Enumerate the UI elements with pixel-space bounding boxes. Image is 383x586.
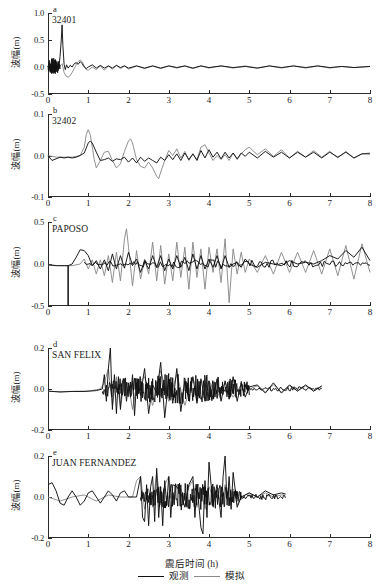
panel-b: -0.10.00.1012345678波幅(m)b32402: [0, 114, 383, 227]
y-axis-label-d: 波幅(m): [9, 377, 22, 403]
y-tick-label-a-3: 1.0: [34, 9, 44, 18]
x-tick-label-d-6: 6: [287, 432, 292, 441]
x-tick-label-c-7: 7: [328, 308, 333, 317]
x-tick-label-e-2: 2: [126, 540, 131, 549]
x-tick-label-e-7: 7: [328, 540, 333, 549]
y-tick-label-b-1: 0.0: [34, 151, 44, 160]
x-tick-label-d-0: 0: [46, 432, 51, 441]
x-tick-d-8: [370, 426, 371, 430]
x-tick-label-c-1: 1: [86, 308, 91, 317]
y-tick-label-c-1: 0.0: [34, 260, 44, 269]
y-tick-label-a-2: 0.5: [34, 36, 44, 45]
x-tick-label-e-0: 0: [46, 540, 51, 549]
trace-b-simulated: [48, 130, 370, 179]
x-axis-title: 震后时间 (h): [0, 556, 383, 570]
x-tick-label-d-7: 7: [328, 432, 333, 441]
y-tick-label-d-2: 0.2: [34, 344, 44, 353]
y-tick-label-d-1: 0.0: [34, 385, 44, 394]
panel-e: -0.20.00.2012345678波幅(m)eJUAN FERNANDEZ: [0, 456, 383, 568]
panel-c: -0.50.00.5012345678波幅(m)cPAPOSO: [0, 222, 383, 336]
x-tick-label-c-0: 0: [46, 308, 51, 317]
x-tick-label-b-7: 7: [328, 199, 333, 208]
x-tick-label-b-5: 5: [247, 199, 252, 208]
x-tick-label-a-3: 3: [167, 96, 172, 105]
panel-letter-e: e: [53, 448, 57, 457]
y-tick-label-b-2: 0.1: [34, 110, 44, 119]
x-tick-label-a-6: 6: [287, 96, 292, 105]
x-tick-label-e-6: 6: [287, 540, 292, 549]
station-label-c: PAPOSO: [52, 225, 88, 235]
x-tick-label-a-7: 7: [328, 96, 333, 105]
x-tick-label-d-3: 3: [167, 432, 172, 441]
x-tick-b-8: [370, 193, 371, 197]
panel-letter-b: b: [53, 106, 57, 115]
x-tick-label-e-8: 8: [368, 540, 373, 549]
x-tick-label-e-4: 4: [207, 540, 212, 549]
y-tick-label-c-2: 0.5: [34, 218, 44, 227]
y-tick-label-e-1: 0.0: [34, 493, 44, 502]
x-tick-label-c-8: 8: [368, 308, 373, 317]
plot-area-c: -0.50.00.5012345678: [48, 222, 370, 306]
x-tick-label-e-5: 5: [247, 540, 252, 549]
waveform-traces-a: [48, 13, 370, 94]
x-tick-label-d-5: 5: [247, 432, 252, 441]
x-tick-label-a-4: 4: [207, 96, 212, 105]
legend-line-observed: [138, 576, 164, 577]
x-tick-label-c-2: 2: [126, 308, 131, 317]
y-tick-label-b-0: -0.1: [31, 193, 44, 202]
legend-label-observed: 观测: [169, 572, 189, 582]
x-tick-label-d-8: 8: [368, 432, 373, 441]
y-axis-label-c: 波幅(m): [9, 252, 22, 278]
x-tick-label-a-0: 0: [46, 96, 51, 105]
trace-e-observed-detail: [241, 494, 285, 500]
x-tick-label-e-3: 3: [167, 540, 172, 549]
y-axis-label-e: 波幅(m): [9, 485, 22, 511]
plot-area-b: -0.10.00.1012345678: [48, 114, 370, 197]
x-tick-label-a-1: 1: [86, 96, 91, 105]
y-axis-label-a: 波幅(m): [9, 41, 22, 67]
x-tick-label-c-3: 3: [167, 308, 172, 317]
x-tick-label-b-3: 3: [167, 199, 172, 208]
x-tick-e-8: [370, 534, 371, 538]
y-tick-label-a-1: 0.0: [34, 63, 44, 72]
y-tick-label-a-0: -0.5: [31, 90, 44, 99]
x-tick-label-b-4: 4: [207, 199, 212, 208]
panel-a: -0.50.00.51.0012345678波幅(m)a32401: [0, 13, 383, 124]
y-tick-label-e-0: -0.2: [31, 534, 44, 543]
panel-letter-d: d: [53, 340, 57, 349]
legend-label-simulated: 模拟: [225, 572, 245, 582]
legend-line-simulated: [194, 576, 220, 577]
x-tick-label-c-4: 4: [207, 308, 212, 317]
station-label-a: 32401: [52, 16, 76, 26]
station-label-e: JUAN FERNANDEZ: [52, 459, 137, 469]
x-tick-label-d-2: 2: [126, 432, 131, 441]
plot-area-a: -0.50.00.51.0012345678: [48, 13, 370, 94]
figure-root: -0.50.00.51.0012345678波幅(m)a32401-0.10.0…: [0, 0, 383, 586]
x-tick-label-b-2: 2: [126, 199, 131, 208]
panel-letter-c: c: [53, 214, 57, 223]
x-tick-label-a-5: 5: [247, 96, 252, 105]
x-tick-label-a-2: 2: [126, 96, 131, 105]
x-tick-c-8: [370, 302, 371, 306]
x-tick-label-d-4: 4: [207, 432, 212, 441]
x-tick-label-c-6: 6: [287, 308, 292, 317]
waveform-traces-c: [48, 222, 370, 306]
y-tick-label-d-0: -0.2: [31, 426, 44, 435]
x-tick-label-e-1: 1: [86, 540, 91, 549]
x-tick-label-a-8: 8: [368, 96, 373, 105]
panel-d: -0.20.00.2012345678波幅(m)dSAN FELIX: [0, 348, 383, 460]
x-tick-label-c-5: 5: [247, 308, 252, 317]
x-tick-a-8: [370, 90, 371, 94]
trace-a-observed: [48, 25, 370, 74]
x-tick-label-d-1: 1: [86, 432, 91, 441]
waveform-traces-b: [48, 114, 370, 197]
y-tick-label-e-2: 0.2: [34, 452, 44, 461]
x-tick-label-b-6: 6: [287, 199, 292, 208]
x-tick-label-b-8: 8: [368, 199, 373, 208]
x-tick-label-b-0: 0: [46, 199, 51, 208]
legend: 观测 模拟: [0, 572, 383, 582]
panel-letter-a: a: [53, 5, 57, 14]
trace-d-simulated: [48, 369, 322, 410]
station-label-d: SAN FELIX: [52, 351, 101, 361]
y-axis-label-b: 波幅(m): [9, 143, 22, 169]
